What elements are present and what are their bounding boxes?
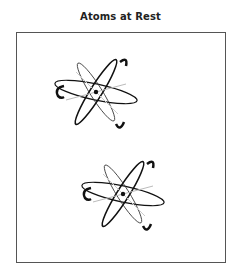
figure-title: Atoms at Rest — [0, 11, 241, 22]
atom-icon — [73, 154, 173, 234]
atom-icon — [46, 52, 146, 132]
